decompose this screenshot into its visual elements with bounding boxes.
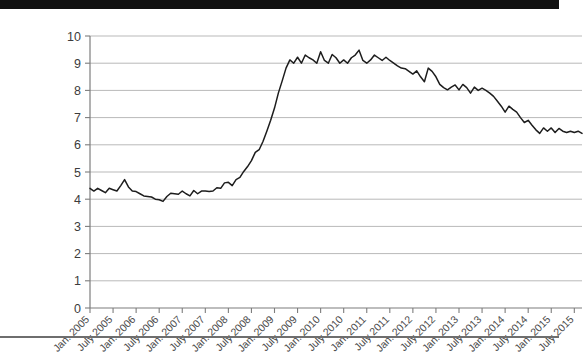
- gridlines-group: [90, 36, 582, 281]
- y-tick-label: 7: [74, 111, 81, 125]
- y-tick-label: 10: [67, 30, 81, 44]
- y-tick-label: 6: [74, 138, 81, 152]
- scan-artifact-top-bar: [0, 0, 559, 9]
- y-tick-label: 4: [74, 193, 81, 207]
- y-tick-label: 8: [74, 84, 81, 98]
- y-axis-tick-labels-group: 012345678910: [67, 30, 81, 316]
- unemployment-rate-series-line: [90, 50, 582, 201]
- y-tick-label: 1: [74, 274, 81, 288]
- chart-canvas: 012345678910 Jan. 2005July 2005Jan. 2006…: [40, 16, 587, 356]
- y-tick-label: 5: [74, 166, 81, 180]
- y-axis-ticks-group: [85, 36, 90, 308]
- y-tick-label: 0: [74, 302, 81, 316]
- scan-artifact-bottom-rule: [0, 336, 559, 338]
- y-tick-label: 9: [74, 57, 81, 71]
- y-tick-label: 2: [74, 247, 81, 261]
- x-axis-ticks-group: [90, 308, 574, 313]
- line-chart-figure: 012345678910 Jan. 2005July 2005Jan. 2006…: [40, 16, 587, 356]
- y-tick-label: 3: [74, 220, 81, 234]
- x-axis-tick-labels-group: Jan. 2005July 2005Jan. 2006July 2006Jan.…: [50, 313, 576, 354]
